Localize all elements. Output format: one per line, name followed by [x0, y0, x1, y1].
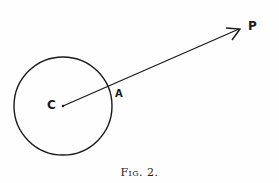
figure-caption: Fig. 2.: [0, 166, 279, 179]
vector-line-cp: [63, 29, 239, 106]
label-a: A: [115, 89, 123, 99]
label-p: P: [248, 20, 257, 32]
label-c: C: [47, 99, 56, 111]
figure: C A P Fig. 2.: [0, 0, 279, 183]
diagram-canvas: [0, 0, 279, 183]
